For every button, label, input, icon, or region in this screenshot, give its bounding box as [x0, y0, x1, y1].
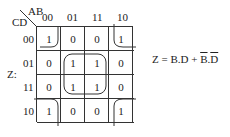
equation-d-bar: D [210, 53, 218, 65]
group-corner-bl [34, 99, 58, 126]
equation-b-bar: B [200, 53, 207, 65]
boolean-equation: Z = B.D + B.D [152, 53, 218, 65]
group-loops [0, 0, 230, 137]
group-corner-tr [114, 24, 136, 47]
group-center-loop [64, 54, 106, 94]
group-corner-br [114, 99, 136, 126]
group-corner-tl [40, 26, 58, 47]
equation-lhs: Z = B.D + [152, 53, 200, 65]
